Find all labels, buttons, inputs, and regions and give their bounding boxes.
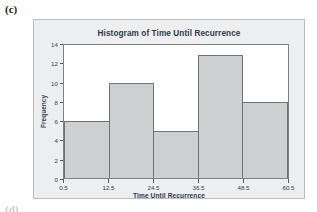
x-axis-tick <box>153 179 154 183</box>
x-axis-tick <box>243 179 244 183</box>
y-axis-tick-label: 0 <box>55 176 58 183</box>
histogram-bar <box>153 131 199 179</box>
x-axis-tick-label: 0.5 <box>59 184 68 191</box>
y-axis-tick-label: 14 <box>51 41 58 48</box>
figure-part-label-d: (d) <box>5 203 18 212</box>
x-axis-tick <box>108 179 109 183</box>
chart-title: Histogram of Time Until Recurrence <box>34 29 304 38</box>
histogram-bar <box>64 121 110 178</box>
x-axis-tick-label: 60.5 <box>282 184 294 191</box>
y-axis-tick-label: 6 <box>55 118 58 125</box>
y-axis-title-text: Frequency <box>41 95 48 128</box>
y-axis-tick-label: 12 <box>51 60 58 67</box>
x-axis-tick <box>288 179 289 183</box>
x-axis-title: Time Until Recurrence <box>34 192 304 199</box>
figure-part-label-c: (c) <box>5 3 17 15</box>
histogram-bars <box>64 45 288 178</box>
histogram-panel: Histogram of Time Until Recurrence Frequ… <box>33 19 305 199</box>
x-axis-tick-label: 36.5 <box>192 184 204 191</box>
histogram-bar <box>198 55 244 179</box>
x-axis-tick-label: 48.5 <box>237 184 249 191</box>
x-axis-tick <box>198 179 199 183</box>
x-axis: 0.512.524.536.548.560.5 <box>63 179 289 183</box>
plot-area <box>63 44 289 179</box>
x-axis-tick-label: 24.5 <box>147 184 159 191</box>
histogram-bar <box>109 83 155 178</box>
histogram-bar <box>242 102 288 178</box>
y-axis-tick-label: 4 <box>55 137 58 144</box>
y-axis-title: Frequency <box>39 44 49 179</box>
y-axis-tick-label: 8 <box>55 98 58 105</box>
y-axis-tick-label: 2 <box>55 156 58 163</box>
y-axis-tick-label: 10 <box>51 79 58 86</box>
x-axis-tick-label: 12.5 <box>102 184 114 191</box>
x-axis-tick <box>63 179 64 183</box>
